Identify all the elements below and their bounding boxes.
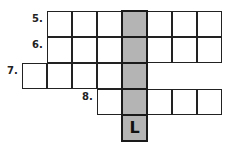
grid-cell[interactable] (97, 37, 122, 63)
column-divider (122, 114, 147, 116)
grid-cell[interactable] (122, 89, 147, 115)
grid-cell[interactable] (97, 11, 122, 37)
grid-cell[interactable] (172, 37, 197, 63)
grid-cell[interactable] (97, 89, 122, 115)
grid-cell[interactable] (72, 11, 97, 37)
column-divider (122, 36, 147, 38)
grid-cell[interactable] (172, 11, 197, 37)
grid-cell[interactable] (197, 37, 222, 63)
grid-cell[interactable] (72, 63, 97, 89)
grid-cell[interactable] (197, 89, 222, 115)
grid-cell[interactable] (147, 89, 172, 115)
grid-cell[interactable] (197, 11, 222, 37)
column-divider (122, 62, 147, 64)
grid-cell[interactable] (147, 11, 172, 37)
grid-cell[interactable] (147, 37, 172, 63)
clue-number: 6. (32, 39, 43, 50)
grid-cell[interactable] (22, 63, 47, 89)
grid-cell[interactable] (122, 11, 147, 37)
clue-number: 7. (7, 65, 18, 76)
grid-cell[interactable] (122, 37, 147, 63)
cell-letter: L (122, 118, 147, 137)
column-divider (122, 88, 147, 90)
grid-cell[interactable] (72, 37, 97, 63)
grid-cell[interactable] (172, 89, 197, 115)
clue-number: 5. (32, 13, 43, 24)
grid-cell[interactable] (97, 63, 122, 89)
grid-cell[interactable] (47, 37, 72, 63)
grid-cell[interactable] (47, 11, 72, 37)
grid-cell[interactable] (47, 63, 72, 89)
grid-cell[interactable] (122, 63, 147, 89)
clue-number: 8. (82, 91, 93, 102)
